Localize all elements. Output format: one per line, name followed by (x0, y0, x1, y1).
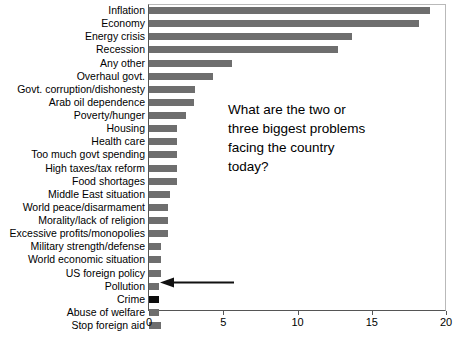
x-axis-tick (149, 311, 150, 315)
bar (149, 165, 177, 172)
bar-row: Middle East situation (0, 188, 458, 201)
bar-row: Energy crisis (0, 30, 458, 43)
x-axis-tick (298, 311, 299, 315)
bar-row: Economy (0, 17, 458, 30)
annotation-line-4: today? (228, 157, 428, 176)
bar (149, 296, 159, 303)
bar-category-label: Middle East situation (0, 189, 145, 200)
bar-row: World peace/disarmament (0, 201, 458, 214)
x-axis-tick-label: 10 (291, 316, 303, 328)
bar (149, 178, 177, 185)
x-axis-tick (372, 311, 373, 315)
bar (149, 138, 177, 145)
bar-category-label: Food shortages (0, 176, 145, 187)
bar (149, 283, 159, 290)
bar-category-label: High taxes/tax reform (0, 163, 145, 174)
bar-category-label: Inflation (0, 5, 145, 16)
x-axis-tick-label: 15 (366, 316, 378, 328)
bar-row: Recession (0, 43, 458, 56)
bar-category-label: Energy crisis (0, 31, 145, 42)
bar-row: Overhaul govt. (0, 70, 458, 83)
bar-category-label: Excessive profits/monopolies (0, 228, 145, 239)
bar-category-label: Health care (0, 136, 145, 147)
bar-category-label: Morality/lack of religion (0, 215, 145, 226)
bar (149, 60, 232, 67)
bar-row: Food shortages (0, 175, 458, 188)
bar-category-label: World economic situation (0, 254, 145, 265)
bar-category-label: Govt. corruption/dishonesty (0, 84, 145, 95)
bar (149, 243, 161, 250)
bar (149, 46, 338, 53)
bar-row: Morality/lack of religion (0, 214, 458, 227)
annotation-line-2: three biggest problems (228, 119, 428, 138)
x-axis-tick-label: 5 (220, 316, 226, 328)
bar (149, 86, 195, 93)
bar (149, 204, 168, 211)
x-axis-tick (446, 311, 447, 315)
bar (149, 256, 161, 263)
bar-category-label: Overhaul govt. (0, 71, 145, 82)
bar-category-label: Too much govt spending (0, 149, 145, 160)
bar-category-label: Crime (0, 294, 145, 305)
bar-category-label: Economy (0, 18, 145, 29)
bar-row: Any other (0, 57, 458, 70)
bar-category-label: Military strength/defense (0, 241, 145, 252)
bar (149, 217, 168, 224)
bar (149, 33, 352, 40)
x-axis: 05101520 (0, 311, 458, 341)
bar-row: Excessive profits/monopolies (0, 227, 458, 240)
horizontal-bar-chart: InflationEconomyEnergy crisisRecessionAn… (0, 0, 458, 341)
bar (149, 20, 419, 27)
bar-category-label: World peace/disarmament (0, 202, 145, 213)
bar (149, 191, 170, 198)
bar-category-label: US foreign policy (0, 268, 145, 279)
bar-row: Crime (0, 293, 458, 306)
question-annotation: What are the two or three biggest proble… (228, 100, 428, 176)
x-axis-tick (223, 311, 224, 315)
bar-category-label: Housing (0, 123, 145, 134)
bar-category-label: Recession (0, 44, 145, 55)
bar-row: Govt. corruption/dishonesty (0, 83, 458, 96)
bar (149, 73, 213, 80)
bar (149, 151, 177, 158)
annotation-line-1: What are the two or (228, 100, 428, 119)
x-axis-tick-label: 20 (440, 316, 452, 328)
bar (149, 112, 186, 119)
bar-category-label: Arab oil dependence (0, 97, 145, 108)
bar-row: Military strength/defense (0, 240, 458, 253)
bar (149, 125, 177, 132)
bar-category-label: Pollution (0, 281, 145, 292)
annotation-line-3: facing the country (228, 138, 428, 157)
bar (149, 99, 194, 106)
bar-category-label: Poverty/hunger (0, 110, 145, 121)
bar (149, 7, 430, 14)
bar (149, 230, 168, 237)
bar-category-label: Any other (0, 58, 145, 69)
x-axis-tick-label: 0 (146, 316, 152, 328)
crime-arrow-icon (160, 276, 234, 289)
bar-row: World economic situation (0, 253, 458, 266)
bar-row: Inflation (0, 4, 458, 17)
